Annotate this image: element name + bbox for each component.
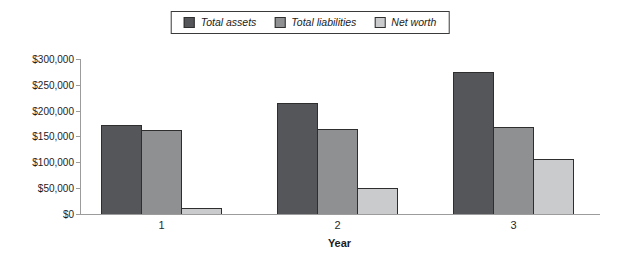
y-axis-tick-label: $100,000 (32, 157, 74, 168)
legend-swatch (374, 17, 385, 28)
y-axis-tick (76, 59, 80, 60)
y-axis-tick-label: $300,000 (32, 54, 74, 65)
legend-swatch (184, 17, 195, 28)
bar (181, 208, 222, 214)
x-axis-category-labels: 123 (81, 219, 600, 231)
bar (453, 72, 494, 214)
bar (317, 129, 358, 214)
bar (101, 125, 142, 214)
x-category-label: 3 (453, 219, 574, 231)
y-axis-tick-label: $200,000 (32, 106, 74, 117)
legend-label: Net worth (391, 17, 436, 28)
plot-area: 123 $0$50,000$100,000$150,000$200,000$25… (80, 59, 600, 215)
y-axis-tick-label: $250,000 (32, 80, 74, 91)
y-axis-tick (76, 111, 80, 112)
bar (533, 159, 574, 214)
bar-groups (81, 59, 600, 214)
y-axis-tick (76, 85, 80, 86)
y-axis-tick (76, 214, 80, 215)
chart-legend: Total assetsTotal liabilitiesNet worth (171, 11, 450, 34)
bar (493, 127, 534, 214)
legend-label: Total liabilities (291, 17, 356, 28)
y-axis-tick (76, 136, 80, 137)
y-axis-tick-label: $150,000 (32, 131, 74, 142)
bar-chart-figure: Total assetsTotal liabilitiesNet worth 1… (0, 0, 620, 258)
legend-item: Total assets (184, 17, 257, 28)
y-axis-tick (76, 162, 80, 163)
x-category-label: 2 (277, 219, 398, 231)
legend-item: Total liabilities (274, 17, 356, 28)
legend-item: Net worth (374, 17, 436, 28)
legend-label: Total assets (201, 17, 257, 28)
legend-swatch (274, 17, 285, 28)
bar (357, 188, 398, 214)
x-axis-title: Year (80, 237, 599, 249)
bar (141, 130, 182, 214)
y-axis-tick-label: $0 (63, 209, 74, 220)
bar-group (453, 72, 574, 214)
y-axis-tick-label: $50,000 (38, 183, 74, 194)
x-category-label: 1 (101, 219, 222, 231)
bar-group (101, 125, 222, 214)
bar-group (277, 103, 398, 214)
bar (277, 103, 318, 214)
y-axis-tick (76, 188, 80, 189)
